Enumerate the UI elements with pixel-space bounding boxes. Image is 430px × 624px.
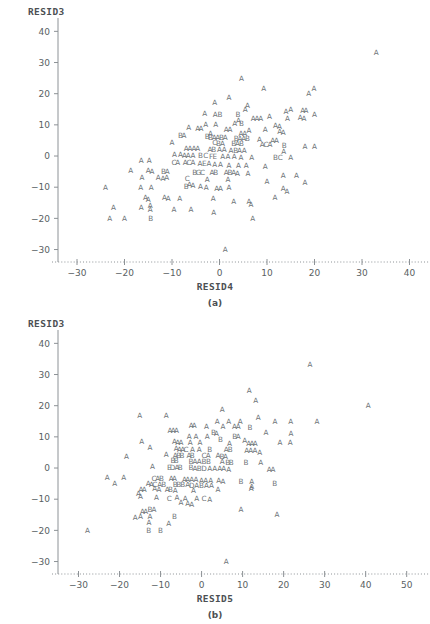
data-point-marker: A xyxy=(205,432,210,441)
data-point-marker: A xyxy=(264,428,269,437)
data-point-marker: A xyxy=(174,426,179,435)
data-point-marker: A xyxy=(150,167,155,176)
data-point-marker: C xyxy=(278,153,283,162)
data-point-marker: A xyxy=(236,422,241,431)
data-point-marker: A xyxy=(261,84,266,93)
data-point-marker: A xyxy=(207,495,212,504)
y-tick-label: 10 xyxy=(39,120,51,130)
data-point-marker: B xyxy=(272,479,277,488)
data-point-marker: A xyxy=(139,156,144,165)
data-point-marker: A xyxy=(205,175,210,184)
data-point-marker: B xyxy=(172,512,177,521)
data-point-marker: A xyxy=(218,184,223,193)
data-point-marker: A xyxy=(204,183,209,192)
data-point-marker: A xyxy=(164,450,169,459)
data-point-marker: A xyxy=(166,519,171,528)
data-point-marker: A xyxy=(112,479,117,488)
data-point-marker: A xyxy=(121,473,126,482)
data-point-marker: A xyxy=(218,160,223,169)
data-point-marker: A xyxy=(181,131,186,140)
data-point-marker: A xyxy=(288,438,293,447)
data-point-marker: A xyxy=(171,205,176,214)
data-point-marker: A xyxy=(258,458,263,467)
data-point-marker: A xyxy=(227,125,232,134)
data-point-marker: A xyxy=(202,109,207,118)
data-point-marker: A xyxy=(147,156,152,165)
y-tick-label: −20 xyxy=(31,214,50,224)
data-point-marker: C xyxy=(167,494,172,503)
data-point-marker: A xyxy=(289,429,294,438)
data-point-marker: B xyxy=(213,168,218,177)
data-point-marker: A xyxy=(148,205,153,214)
data-point-marker: B xyxy=(148,214,153,223)
x-axis-title-b: RESID5 xyxy=(0,593,430,604)
data-point-marker: A xyxy=(207,159,212,168)
data-point-marker: A xyxy=(226,465,231,474)
data-point-marker: A xyxy=(306,89,311,98)
data-point-marker: A xyxy=(137,411,142,420)
data-point-marker: A xyxy=(239,74,244,83)
data-point-marker: A xyxy=(270,465,275,474)
x-tick-label: 20 xyxy=(309,268,321,278)
x-tick-label: −30 xyxy=(68,268,87,278)
data-point-marker: A xyxy=(232,152,237,161)
data-point-marker: A xyxy=(186,123,191,132)
data-point-marker: A xyxy=(223,245,228,254)
data-point-marker: A xyxy=(179,498,184,507)
data-point-marker: B xyxy=(245,134,250,143)
data-point-marker: A xyxy=(267,140,272,149)
data-point-marker: A xyxy=(170,138,175,147)
y-axis-title-a: RESID3 xyxy=(28,6,65,17)
data-point-marker: A xyxy=(224,557,229,566)
x-tick-label: 30 xyxy=(319,580,331,590)
data-point-marker: A xyxy=(274,136,279,145)
data-point-marker: A xyxy=(128,166,133,175)
data-point-marker: A xyxy=(312,84,317,93)
scatter-plot-a: −30−20−10010203040−30−20−10010203040AAAA… xyxy=(0,0,430,312)
figure-container: −30−20−10010203040−30−20−10010203040AAAA… xyxy=(0,0,430,624)
data-point-marker: A xyxy=(249,484,254,493)
data-point-marker: A xyxy=(307,360,312,369)
data-point-marker: A xyxy=(312,142,317,151)
data-point-marker: A xyxy=(226,152,231,161)
data-point-marker: A xyxy=(250,214,255,223)
data-point-marker: B xyxy=(146,526,151,535)
x-axis-title-a: RESID4 xyxy=(0,281,430,292)
data-point-marker: A xyxy=(85,526,90,535)
x-tick-label: −10 xyxy=(163,268,182,278)
x-tick-label: 10 xyxy=(261,268,273,278)
data-point-marker: B xyxy=(158,526,163,535)
data-point-marker: A xyxy=(220,422,225,431)
panel-caption-b: (b) xyxy=(0,610,430,620)
data-point-marker: A xyxy=(154,493,159,502)
data-point-marker: B xyxy=(218,435,223,444)
data-point-marker: A xyxy=(190,158,195,167)
data-point-marker: A xyxy=(249,153,254,162)
data-point-marker: B xyxy=(243,458,248,467)
data-point-marker: A xyxy=(122,214,127,223)
x-tick-label: 20 xyxy=(278,580,290,590)
data-point-marker: A xyxy=(374,48,379,57)
data-point-marker: B xyxy=(218,110,223,119)
data-point-marker: A xyxy=(246,169,251,178)
data-point-marker: A xyxy=(190,181,195,190)
data-point-marker: A xyxy=(211,208,216,217)
data-point-marker: A xyxy=(273,193,278,202)
data-point-marker: A xyxy=(124,452,129,461)
data-point-marker: A xyxy=(281,171,286,180)
panel-a: −30−20−10010203040−30−20−10010203040AAAA… xyxy=(0,0,430,312)
data-point-marker: A xyxy=(256,413,261,422)
data-point-marker: A xyxy=(227,93,232,102)
data-point-marker: A xyxy=(312,110,317,119)
data-point-marker: A xyxy=(138,512,143,521)
data-point-marker: A xyxy=(212,98,217,107)
data-point-marker: A xyxy=(213,120,218,129)
y-tick-label: 0 xyxy=(44,463,50,473)
data-point-marker: A xyxy=(204,422,209,431)
data-point-marker: A xyxy=(215,417,220,426)
data-point-marker: A xyxy=(103,183,108,192)
y-tick-label: 20 xyxy=(39,401,51,411)
data-point-marker: A xyxy=(248,200,253,209)
data-point-marker: A xyxy=(164,411,169,420)
data-point-marker: A xyxy=(302,114,307,123)
